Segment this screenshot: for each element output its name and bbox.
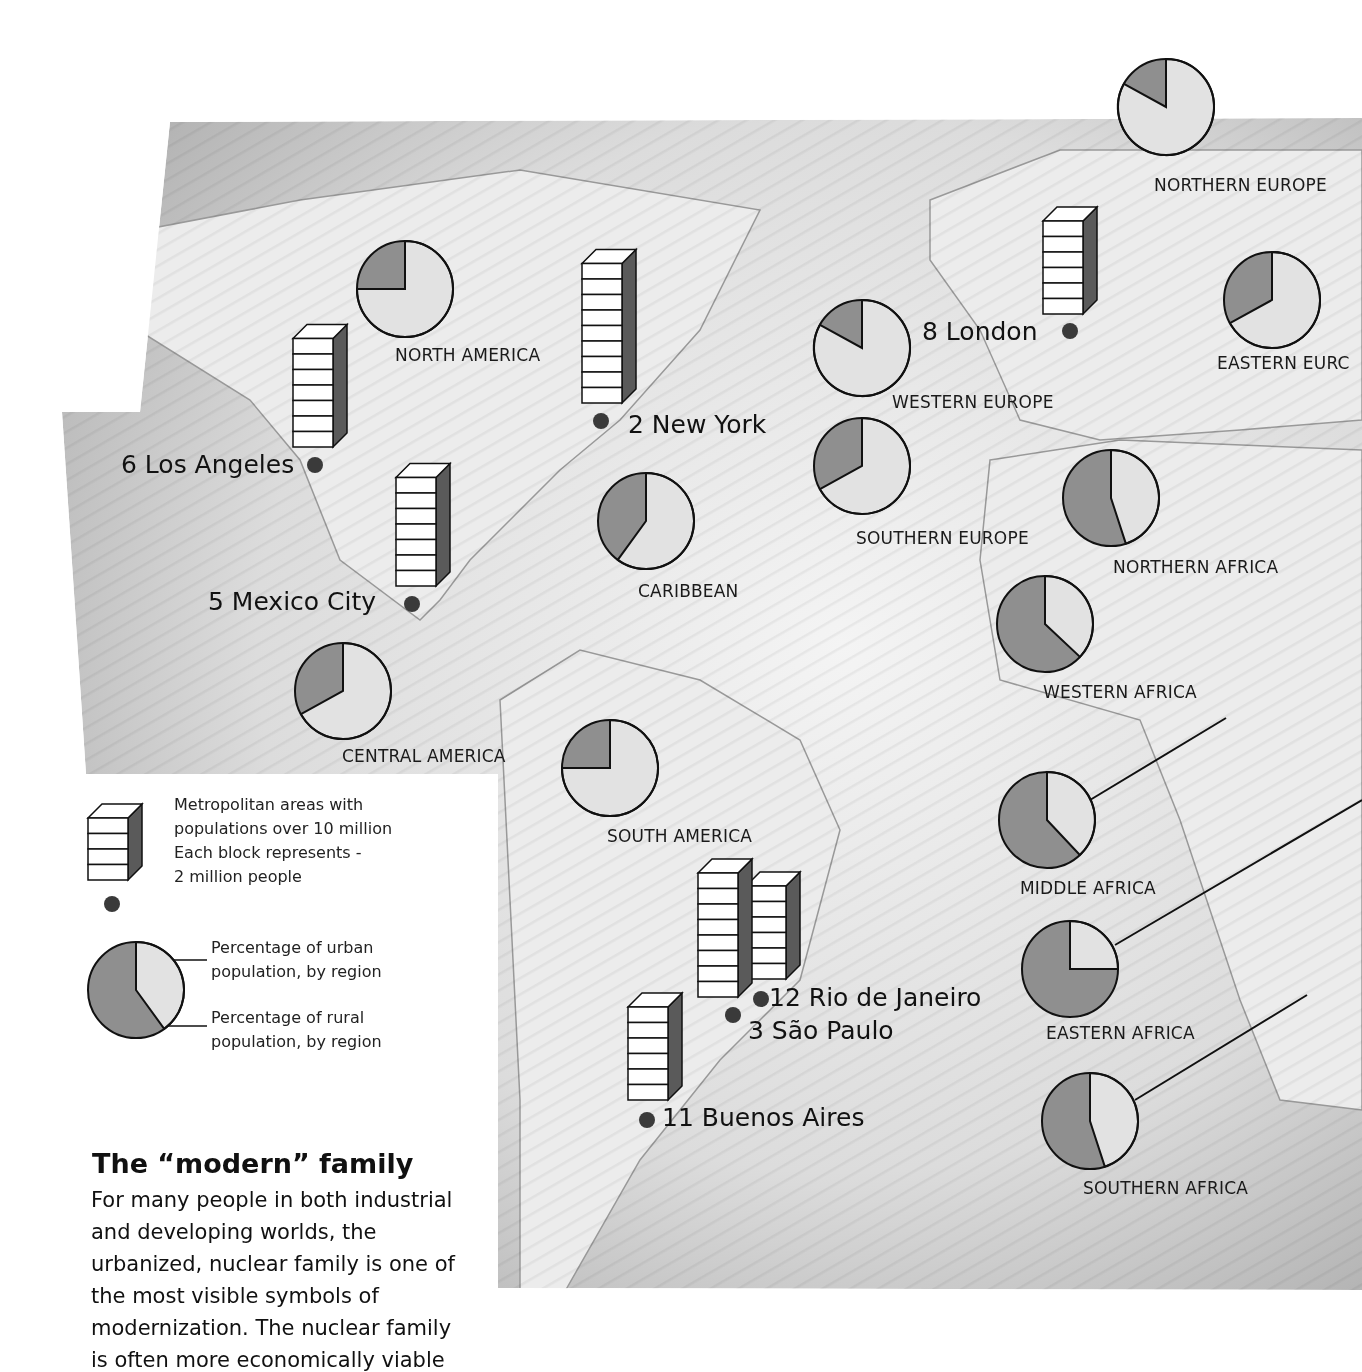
legend-rural-text: Percentage of rural population, by regio… (211, 1006, 382, 1054)
region-label-middle-africa: MIDDLE AFRICA (1020, 878, 1156, 898)
stack-los-angeles (293, 325, 347, 448)
stack-buenos-aires (628, 993, 682, 1100)
pie-western-africa (997, 576, 1093, 672)
region-label-caribbean: CARIBBEAN (638, 581, 739, 601)
city-marker-los-angeles (307, 457, 323, 473)
city-label-mexico-city: 5 Mexico City (208, 587, 376, 616)
region-label-northern-africa: NORTHERN AFRICA (1113, 557, 1278, 577)
region-label-northern-europe: NORTHERN EUROPE (1154, 175, 1327, 195)
region-label-western-europe: WESTERN EUROPE (892, 392, 1054, 412)
article-heading: The “modern” family (92, 1148, 413, 1179)
region-label-central-america: CENTRAL AMERICA (342, 746, 506, 766)
region-label-north-america: NORTH AMERICA (395, 345, 540, 365)
legend-dot-icon (104, 896, 120, 912)
stack-mexico-city (396, 464, 450, 587)
pie-eastern-europe (1224, 252, 1320, 348)
pie-central-america (295, 643, 391, 739)
city-label-london: 8 London (922, 317, 1038, 346)
pie-caribbean (598, 473, 694, 569)
pie-southern-africa (1042, 1073, 1138, 1169)
city-label-buenos-aires: 11 Buenos Aires (662, 1103, 864, 1132)
region-label-western-africa: WESTERN AFRICA (1043, 682, 1197, 702)
city-marker-mexico-city (404, 596, 420, 612)
city-label-rio-de-janeiro: 12 Rio de Janeiro (769, 983, 981, 1012)
region-label-eastern-africa: EASTERN AFRICA (1046, 1023, 1195, 1043)
city-marker-new-york (593, 413, 609, 429)
city-marker-buenos-aires (639, 1112, 655, 1128)
pie-southern-europe (814, 418, 910, 514)
region-label-south-america: SOUTH AMERICA (607, 826, 752, 846)
article-body: For many people in both industrial and d… (91, 1184, 461, 1372)
pie-northern-europe (1118, 59, 1214, 155)
pie-western-europe (814, 300, 910, 396)
city-label-sao-paulo: 3 São Paulo (748, 1016, 894, 1045)
region-label-southern-africa: SOUTHERN AFRICA (1083, 1178, 1248, 1198)
city-label-los-angeles: 6 Los Angeles (121, 450, 294, 479)
region-label-southern-europe: SOUTHERN EUROPE (856, 528, 1029, 548)
pie-northern-africa (1063, 450, 1159, 546)
pie-south-america (562, 720, 658, 816)
legend-metro-text: Metropolitan areas with populations over… (174, 793, 392, 889)
legend-pie-icon (88, 942, 184, 1038)
city-marker-sao-paulo (725, 1007, 741, 1023)
stack-sao-paulo (698, 859, 752, 997)
stack-london (1043, 207, 1097, 314)
city-label-new-york: 2 New York (628, 410, 766, 439)
stack-new-york (582, 250, 636, 404)
legend-urban-text: Percentage of urban population, by regio… (211, 936, 382, 984)
pie-middle-africa (999, 772, 1095, 868)
pie-north-america (357, 241, 453, 337)
pie-eastern-africa (1022, 921, 1118, 1017)
legend-stack-icon (88, 804, 142, 880)
city-marker-rio-de-janeiro (753, 991, 769, 1007)
region-label-eastern-europe: EASTERN EURC (1217, 353, 1350, 373)
city-marker-london (1062, 323, 1078, 339)
stack-rio-de-janeiro (746, 872, 800, 979)
